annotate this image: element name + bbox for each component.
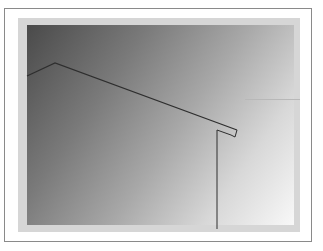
soffit-line bbox=[217, 130, 231, 135]
roof-line bbox=[27, 63, 237, 130]
roof-eave-drawing bbox=[0, 0, 323, 251]
eave-tip bbox=[231, 130, 237, 137]
